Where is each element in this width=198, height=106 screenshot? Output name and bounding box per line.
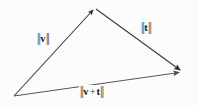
- label-norm-v: ||v||: [36, 32, 50, 45]
- label-norm-t: ||t||: [140, 21, 152, 34]
- norm-bars-close: ||: [100, 84, 103, 98]
- vector-triangle-figure: ||v|| ||t|| ||v+t||: [0, 0, 198, 106]
- vector-lines-group: [14, 9, 180, 96]
- label-norm-v-plus-t: ||v+t||: [79, 85, 104, 98]
- norm-bars-close: ||: [148, 20, 151, 34]
- norm-bars-close: ||: [46, 31, 49, 45]
- vector-symbol-v: v: [83, 86, 89, 97]
- vector-t-line: [96, 9, 180, 70]
- plus-operator: +: [89, 87, 96, 97]
